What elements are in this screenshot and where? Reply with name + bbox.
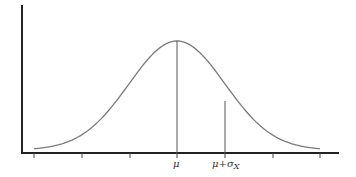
mu-label: μ [173, 158, 180, 169]
mu-plus-sigma-label: μ+σX [212, 158, 239, 171]
normal-curve-chart [0, 0, 356, 177]
